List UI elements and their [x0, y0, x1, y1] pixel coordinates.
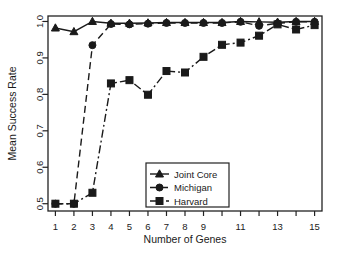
data-point-circle — [237, 18, 244, 25]
data-point-square — [163, 68, 170, 75]
data-point-square — [126, 77, 133, 84]
x-tick-label: 7 — [164, 221, 169, 232]
x-tick-label: 15 — [309, 221, 320, 232]
data-point-square — [52, 200, 59, 207]
data-point-circle — [182, 19, 189, 26]
data-point-circle — [144, 20, 151, 27]
x-tick-label: 5 — [127, 221, 132, 232]
chart-figure: 0.50.60.70.80.91.0123456789111315Number … — [0, 0, 341, 260]
data-point-square — [274, 21, 281, 28]
y-tick-label: 1.0 — [35, 15, 46, 28]
x-tick-label: 9 — [201, 221, 206, 232]
y-axis-title: Mean Success Rate — [6, 66, 18, 160]
legend-entry-michigan[interactable]: Michigan — [150, 182, 212, 193]
y-tick-label: 0.7 — [35, 124, 46, 137]
legend-label: Harvard — [174, 196, 208, 207]
data-point-circle — [256, 22, 263, 29]
x-tick-label: 13 — [272, 221, 283, 232]
x-tick-label: 2 — [71, 221, 76, 232]
legend-label: Michigan — [174, 182, 212, 193]
data-point-square — [144, 91, 151, 98]
data-point-square — [237, 39, 244, 46]
data-point-circle — [107, 21, 114, 28]
data-point-square — [200, 53, 207, 60]
data-point-square — [107, 80, 114, 87]
x-tick-label: 1 — [53, 221, 58, 232]
x-tick-label: 6 — [145, 221, 150, 232]
legend-entry-harvard[interactable]: Harvard — [150, 196, 208, 207]
x-tick-label: 8 — [182, 221, 187, 232]
data-point-circle — [219, 19, 226, 26]
data-point-square — [70, 200, 77, 207]
data-point-square — [219, 41, 226, 48]
y-tick-label: 0.9 — [35, 51, 46, 64]
y-tick-label: 0.8 — [35, 88, 46, 101]
data-point-circle — [163, 19, 170, 26]
data-point-square — [311, 22, 318, 29]
data-point-circle — [89, 42, 96, 49]
legend-label: Joint Core — [174, 169, 217, 180]
data-point-square — [89, 189, 96, 196]
x-tick-label: 11 — [236, 221, 246, 232]
data-point-square — [293, 26, 300, 33]
data-point-triangle — [51, 24, 59, 31]
x-axis-title: Number of Genes — [144, 233, 227, 245]
data-point-square — [156, 198, 163, 205]
y-tick-label: 0.6 — [35, 161, 46, 174]
x-tick-label: 3 — [90, 221, 95, 232]
y-tick-label: 0.5 — [35, 197, 46, 210]
line-chart: 0.50.60.70.80.91.0123456789111315Number … — [0, 0, 341, 260]
data-point-circle — [293, 18, 300, 25]
data-point-square — [182, 69, 189, 76]
data-point-circle — [126, 21, 133, 28]
data-point-square — [256, 32, 263, 39]
data-point-circle — [156, 184, 163, 191]
data-point-triangle — [88, 17, 96, 24]
data-point-circle — [200, 19, 207, 26]
x-tick-label: 4 — [108, 221, 113, 232]
